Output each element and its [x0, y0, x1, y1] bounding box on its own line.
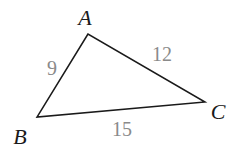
triangle-abc — [37, 34, 205, 117]
vertex-label-c: C — [211, 99, 226, 124]
triangle-diagram: A B C 9 12 15 — [0, 0, 239, 150]
side-label-ac: 12 — [152, 43, 172, 65]
side-label-bc: 15 — [112, 118, 132, 140]
side-label-ab: 9 — [47, 57, 57, 79]
vertex-label-a: A — [76, 5, 92, 30]
vertex-label-b: B — [13, 124, 26, 149]
